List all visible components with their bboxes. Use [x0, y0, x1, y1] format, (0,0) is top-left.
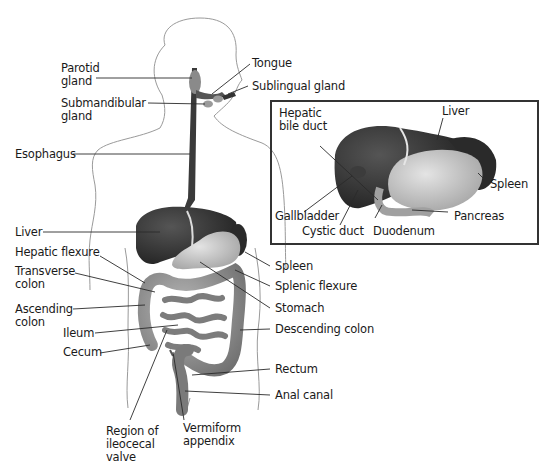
inset-label-gallbladder: Gallbladder — [275, 210, 339, 223]
label-stomach: Stomach — [275, 302, 324, 315]
inset-label-pancreas: Pancreas — [454, 210, 504, 223]
inset-label-hepatic-bile-duct: Hepatic bile duct — [279, 107, 327, 133]
label-submandibular-gland: Submandibular gland — [61, 97, 146, 123]
label-tongue: Tongue — [252, 57, 292, 70]
label-hepatic-flexure: Hepatic flexure — [15, 246, 100, 259]
inset-label-spleen: Spleen — [490, 178, 528, 191]
label-parotid-gland: Parotid gland — [61, 62, 100, 88]
label-region-ileocecal-valve: Region of ileocecal valve — [106, 425, 158, 464]
label-ileum: Ileum — [63, 327, 94, 340]
label-anal-canal: Anal canal — [275, 389, 333, 402]
label-esophagus: Esophagus — [15, 148, 76, 161]
label-descending-colon: Descending colon — [275, 323, 374, 336]
label-rectum: Rectum — [275, 363, 318, 376]
label-transverse-colon: Transverse colon — [15, 265, 75, 291]
label-vermiform-appendix: Vermiform appendix — [183, 422, 241, 448]
parotid-gland-shape — [189, 70, 201, 94]
label-cecum: Cecum — [63, 346, 102, 359]
label-splenic-flexure: Splenic flexure — [275, 280, 357, 293]
inset-label-liver: Liver — [442, 105, 469, 118]
inset-label-cystic-duct: Cystic duct — [302, 225, 364, 238]
label-sublingual-gland: Sublingual gland — [252, 80, 345, 93]
label-spleen: Spleen — [275, 260, 313, 273]
label-liver: Liver — [15, 226, 42, 239]
inset-label-duodenum: Duodenum — [373, 225, 435, 238]
small-intestine-shape — [163, 296, 225, 350]
